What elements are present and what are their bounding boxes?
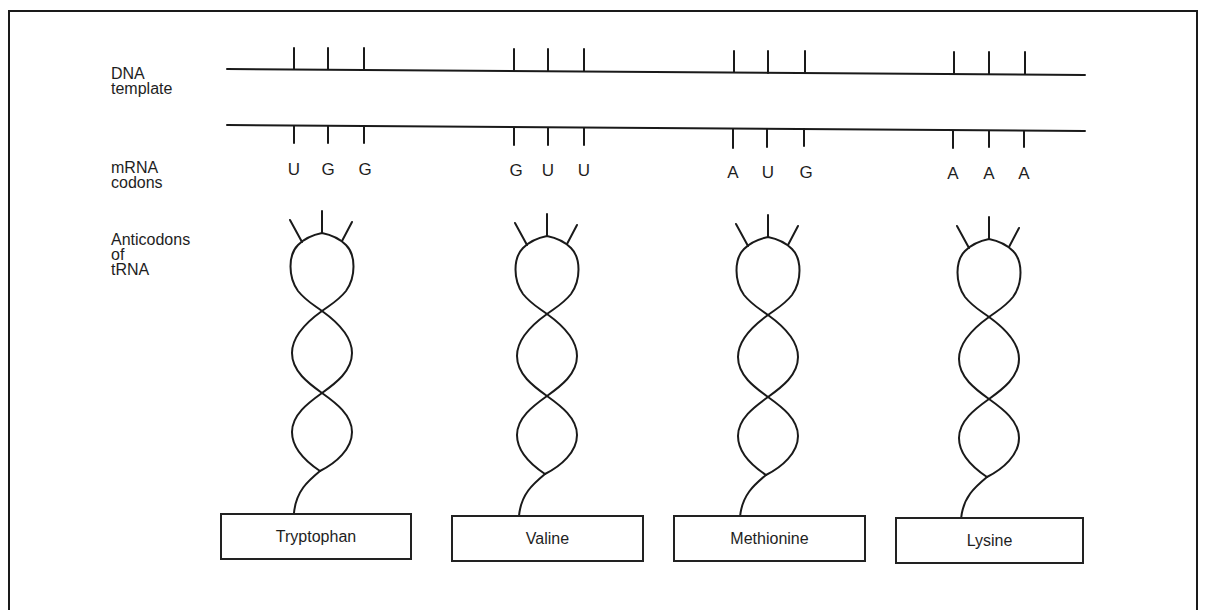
codon-letter: A	[979, 165, 999, 182]
codon-letter: G	[318, 161, 338, 178]
codon-ticks-2	[514, 49, 584, 145]
amino-acid-box-lysine: Lysine	[895, 517, 1084, 564]
codon-ticks-1	[294, 48, 364, 143]
amino-acid-box-tryptophan: Tryptophan	[220, 513, 412, 560]
codon-letter: A	[943, 165, 963, 182]
trna-icon-2	[515, 214, 579, 516]
codon-letter: U	[538, 162, 558, 179]
amino-acid-box-methionine: Methionine	[673, 515, 866, 562]
codon-letter: G	[796, 164, 816, 181]
codon-letter: U	[574, 162, 594, 179]
trna-icon-3	[736, 215, 800, 517]
codon-ticks-4	[953, 52, 1025, 148]
dna-template-strand	[227, 69, 1085, 75]
codon-letter: A	[723, 164, 743, 181]
trna-icon-1	[290, 211, 354, 513]
codon-letter: G	[506, 162, 526, 179]
codon-letter: U	[758, 164, 778, 181]
codon-letter: U	[284, 161, 304, 178]
trna-icon-4	[957, 217, 1021, 519]
mrna-strand	[227, 125, 1085, 131]
codon-ticks-3	[733, 51, 805, 148]
codon-letter: A	[1014, 165, 1034, 182]
amino-acid-box-valine: Valine	[451, 515, 644, 562]
codon-letter: G	[355, 161, 375, 178]
